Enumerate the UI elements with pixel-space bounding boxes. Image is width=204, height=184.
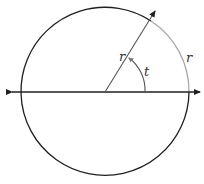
arc-label: r: [186, 50, 193, 65]
arc-highlight: [151, 21, 189, 92]
unit-circle-diagram: r r t: [0, 0, 204, 184]
radius-label: r: [119, 49, 126, 64]
angle-arc: [129, 58, 145, 92]
radius-ray: [105, 11, 155, 92]
angle-label: t: [144, 64, 150, 79]
